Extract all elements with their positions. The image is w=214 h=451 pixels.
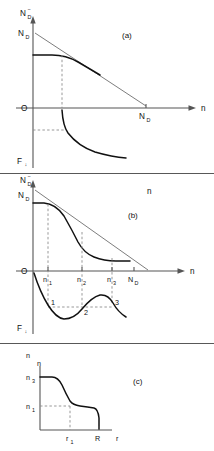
panel-b-marker-2: 3	[115, 298, 119, 307]
panel-b-y-label: N	[18, 191, 24, 200]
panel-c-above-axis-label: n	[26, 351, 30, 360]
panel-c-y-tick-sub-0: 3	[32, 378, 35, 384]
panel-c-tag: (c)	[133, 377, 143, 386]
panel-b-lower-axis-label-sub: ↓	[25, 328, 28, 334]
panel-a-lower-axis-label-sub: ↓	[25, 161, 28, 167]
panel-a-plot: N D − N D O N D n F ↓ (a)	[0, 0, 214, 172]
panel-b-x-tick-sub-3: D	[135, 280, 139, 286]
panel-a-origin-label: O	[21, 104, 27, 113]
panel-c-plot: n n n 3 n 1 r 1 R r (c)	[0, 344, 214, 451]
panel-b-x-axis-arrowhead	[178, 268, 186, 273]
panel-c: n n n 3 n 1 r 1 R r (c)	[0, 344, 214, 451]
panel-a-f-curve	[62, 110, 126, 158]
panel-b-y-top-label-sup: −	[28, 173, 31, 179]
panel-b-neutrality-line	[35, 190, 148, 270]
panel-c-y-axis-label: n	[37, 359, 41, 368]
panel-b-x-tick-sub-0: 1	[49, 280, 52, 286]
panel-b-top-right-label: n	[147, 187, 152, 196]
panel-a-ionization-curve	[33, 55, 100, 75]
panel-b-origin-label: O	[21, 267, 27, 276]
panel-a-y-top-label-sub: D	[28, 14, 32, 20]
panel-c-x-axis-label: r	[116, 434, 119, 443]
panel-c-density-profile	[40, 377, 99, 429]
panel-a-x-axis-label: n	[201, 104, 206, 113]
panel-a-tag: (a)	[122, 31, 132, 40]
panel-b-lower-axis-label: F	[17, 324, 22, 333]
panel-c-y-tick-sub-1: 1	[32, 407, 35, 413]
panel-c-x-tick-sub-0: 1	[71, 439, 74, 445]
panel-b-marker-0: 1	[51, 298, 55, 307]
panel-c-y-tick-label-1: n	[26, 402, 30, 411]
panel-b-plot: N D − N D O n 1 n 2 n 3 N D n n (b) 1 2 …	[0, 174, 214, 342]
panel-a-y-label-sub: D	[26, 34, 30, 40]
panel-b-marker-1: 2	[84, 308, 88, 317]
panel-a-y-top-label-sup: −	[28, 6, 31, 12]
panel-a-y-label: N	[18, 29, 24, 38]
panel-c-x-tick-label-1: R	[95, 434, 100, 443]
panel-b-x-tick-label-0: n	[43, 275, 47, 284]
panel-a: N D − N D O N D n F ↓ (a)	[0, 0, 214, 172]
panel-c-y-tick-label-0: n	[26, 373, 30, 382]
panel-b: N D − N D O n 1 n 2 n 3 N D n n (b) 1 2 …	[0, 174, 214, 342]
panel-c-x-tick-label-0: r	[66, 434, 69, 443]
panel-a-y-top-label: N	[20, 9, 26, 18]
panel-b-y-top-label-sub: D	[28, 181, 32, 187]
panel-b-x-tick-sub-1: 2	[83, 280, 86, 286]
panel-b-x-tick-label-3: N	[128, 275, 133, 284]
figure-root: N D − N D O N D n F ↓ (a)	[0, 0, 214, 451]
panel-b-y-top-label: N	[20, 176, 26, 185]
panel-b-x-tick-label-1: n	[77, 275, 81, 284]
panel-a-x-axis-arrowhead	[189, 105, 197, 110]
panel-b-x-axis-label: n	[190, 267, 195, 276]
panel-a-x-tick-label: N	[139, 112, 145, 121]
panel-b-y-label-sub: D	[26, 196, 30, 202]
panel-b-x-tick-sub-2: 3	[113, 280, 116, 286]
panel-b-x-tick-label-2: n	[107, 275, 111, 284]
panel-a-lower-axis-label: F	[17, 157, 22, 166]
panel-b-tag: (b)	[128, 211, 138, 220]
panel-a-x-tick-label-sub: D	[147, 117, 151, 123]
